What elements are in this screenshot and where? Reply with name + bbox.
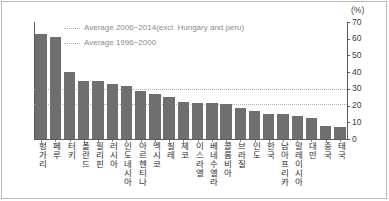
x-axis-category-label: 태국	[335, 142, 345, 160]
y-axis-tick-label: 20	[352, 101, 361, 110]
x-axis-category-label: 칠레	[164, 142, 174, 160]
bar[interactable]	[277, 114, 288, 139]
legend-item-average-1996-2000: Average 1996~2000	[64, 37, 244, 49]
bar[interactable]	[149, 94, 160, 139]
y-axis-tick	[347, 22, 350, 23]
x-axis-spine	[34, 139, 347, 140]
y-axis-tick	[347, 106, 350, 107]
bar[interactable]	[263, 114, 274, 139]
legend-label: Average 1996~2000	[84, 39, 156, 47]
x-axis-category-label: 터키	[65, 142, 75, 160]
y-axis-tick	[347, 122, 350, 123]
x-axis-category-label: 남아프리카	[278, 142, 288, 187]
x-axis-category-label: 인도	[250, 142, 260, 160]
bar[interactable]	[64, 72, 75, 139]
y-axis-tick	[347, 89, 350, 90]
legend-item-average-2006-2014: Average 2006~2014(excl. Hungary and peru…	[64, 22, 244, 34]
x-axis-category-label: 러시아	[107, 142, 117, 169]
y-axis-tick	[347, 39, 350, 40]
bar[interactable]	[249, 111, 260, 139]
x-axis-category-label: 브라질	[235, 142, 245, 169]
y-axis-unit-label: (%)	[351, 6, 364, 15]
bar[interactable]	[121, 86, 132, 139]
y-axis-tick	[347, 139, 350, 140]
bar[interactable]	[235, 108, 246, 139]
x-axis-category-label: 대만	[306, 142, 316, 160]
x-axis-category-label: 이스라엘	[193, 142, 203, 178]
bar[interactable]	[306, 118, 317, 139]
bar[interactable]	[178, 102, 189, 139]
x-axis-category-label: 멕시코	[150, 142, 160, 169]
bar[interactable]	[292, 116, 303, 139]
x-axis-category-label: 말레이시아	[292, 142, 302, 187]
chart-figure: (%) 010203040506070 헝가리페루터키폴란드필리핀러시아인도네시…	[0, 0, 389, 201]
y-axis-tick-label: 50	[352, 51, 361, 60]
x-axis-category-label: 필리핀	[93, 142, 103, 169]
y-axis-tick-label: 0	[352, 135, 357, 144]
chart-legend: Average 2006~2014(excl. Hungary and peru…	[64, 22, 244, 49]
legend-dash-icon	[64, 43, 80, 44]
legend-dash-icon	[64, 28, 80, 29]
y-axis-tick-label: 40	[352, 68, 361, 77]
bar[interactable]	[320, 126, 331, 139]
bar[interactable]	[206, 103, 217, 139]
bar[interactable]	[78, 81, 89, 140]
x-axis-category-label: 페루	[50, 142, 60, 160]
x-axis-category-label: 아르헨티나	[136, 142, 146, 187]
bar[interactable]	[334, 127, 345, 139]
bar[interactable]	[163, 97, 174, 139]
x-axis-category-label: 폴란드	[79, 142, 89, 169]
x-axis-category-label: 중국	[321, 142, 331, 160]
y-axis-tick-label: 30	[352, 84, 361, 93]
bar[interactable]	[107, 84, 118, 139]
x-axis-category-label: 체코	[178, 142, 188, 160]
bar[interactable]	[135, 91, 146, 139]
x-axis-category-label: 인도네시아	[121, 142, 131, 187]
y-axis-tick	[347, 55, 350, 56]
x-axis-category-label: 헝가리	[36, 142, 46, 169]
bar[interactable]	[220, 104, 231, 139]
bar[interactable]	[35, 34, 46, 139]
bar[interactable]	[192, 103, 203, 139]
y-axis-tick	[347, 72, 350, 73]
bar[interactable]	[50, 37, 61, 139]
x-axis-category-label: 콜롬비아	[221, 142, 231, 178]
legend-label: Average 2006~2014(excl. Hungary and peru…	[84, 24, 244, 32]
x-axis-category-label: 베네수엘라	[207, 142, 217, 187]
bar[interactable]	[92, 81, 103, 139]
y-axis-tick-label: 10	[352, 118, 361, 127]
y-axis-tick-label: 70	[352, 18, 361, 27]
x-axis-category-label: 한국	[264, 142, 274, 160]
y-axis-tick-label: 60	[352, 34, 361, 43]
